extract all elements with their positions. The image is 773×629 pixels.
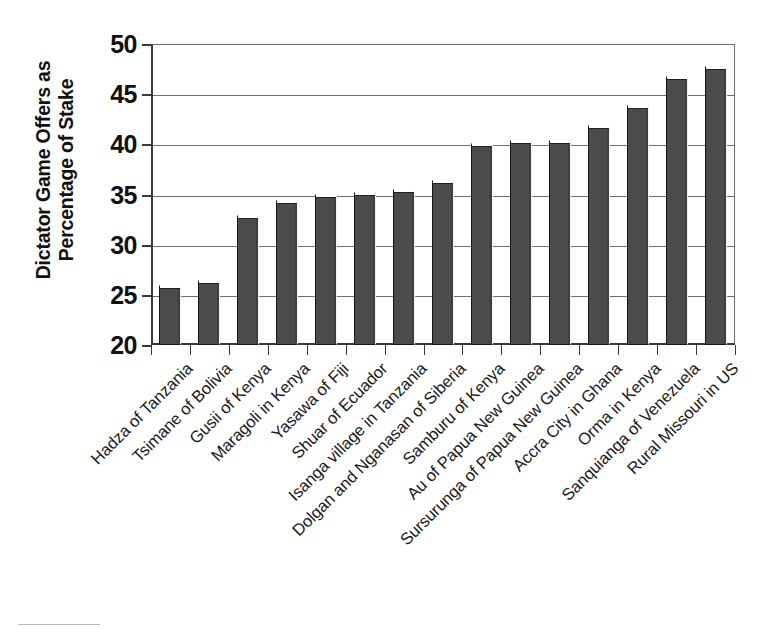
x-tick-mark: [618, 345, 619, 355]
bar: [237, 215, 259, 345]
y-tick-label-35: 35: [81, 183, 137, 208]
bar: [393, 189, 415, 345]
x-tick-mark: [151, 345, 152, 355]
y-tick-label-50: 50: [81, 32, 137, 57]
y-tick-label-30: 30: [81, 233, 137, 258]
y-tick-mark-25: [142, 295, 151, 297]
y-axis-title-line-1: Dictator Game Offers as: [32, 61, 55, 280]
bar: [354, 192, 376, 346]
x-tick-mark: [462, 345, 463, 355]
y-tick-label-45: 45: [81, 82, 137, 107]
bar: [666, 76, 688, 345]
bar: [198, 280, 220, 345]
x-tick-mark: [385, 345, 386, 355]
bar: [471, 143, 493, 345]
footer-rule: [18, 624, 100, 625]
bar: [627, 105, 649, 345]
y-axis-title: Dictator Game Offers as Percentage of St…: [25, 15, 85, 325]
bar-series: [151, 44, 735, 345]
x-tick-mark: [540, 345, 541, 355]
x-tick-mark: [735, 345, 736, 355]
y-tick-mark-50: [142, 44, 151, 46]
x-tick-mark: [229, 345, 230, 355]
dictator-game-bar-chart: Dictator Game Offers as Percentage of St…: [0, 0, 773, 629]
y-axis-title-line-2: Percentage of Stake: [55, 79, 78, 262]
y-tick-label-20: 20: [81, 333, 137, 358]
bar: [510, 140, 532, 345]
y-tick-label-40: 40: [81, 132, 137, 157]
y-tick-mark-40: [142, 144, 151, 146]
bar: [432, 180, 454, 345]
y-tick-mark-30: [142, 245, 151, 247]
y-tick-mark-45: [142, 94, 151, 96]
x-tick-mark: [190, 345, 191, 355]
y-tick-label-25: 25: [81, 283, 137, 308]
bar: [549, 140, 571, 345]
x-tick-mark: [307, 345, 308, 355]
x-tick-mark: [657, 345, 658, 355]
y-tick-mark-35: [142, 195, 151, 197]
x-tick-mark: [346, 345, 347, 355]
bar: [705, 66, 727, 345]
bar: [315, 194, 337, 346]
bar: [588, 125, 610, 345]
x-tick-mark: [696, 345, 697, 355]
x-tick-mark: [424, 345, 425, 355]
bar: [276, 200, 298, 345]
x-tick-mark: [579, 345, 580, 355]
x-tick-mark: [501, 345, 502, 355]
y-tick-mark-20: [142, 345, 151, 347]
bar: [159, 285, 181, 345]
x-tick-mark: [268, 345, 269, 355]
